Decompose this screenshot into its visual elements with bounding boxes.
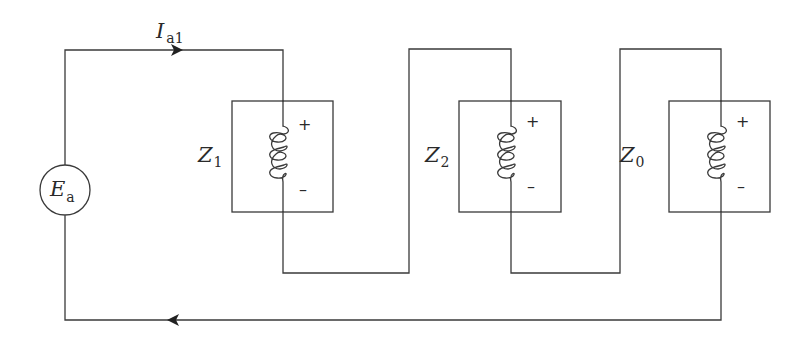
impedance-box [669, 101, 770, 212]
plus-sign: + [526, 112, 539, 131]
inductor-coil-icon [498, 126, 517, 212]
impedance-z1: Z1 + – [197, 101, 333, 212]
wiring [65, 49, 721, 320]
inductor-coil-icon [270, 126, 289, 212]
wire-z1-z2 [283, 49, 511, 273]
impedance-z0: Z0 + – [619, 101, 770, 212]
minus-sign: – [737, 177, 745, 196]
plus-sign: + [736, 112, 749, 131]
current-label: Ia1 [155, 19, 184, 46]
minus-sign: – [299, 180, 307, 199]
current-indicator: Ia1 [155, 19, 184, 326]
inductor-coil-icon [708, 126, 727, 212]
voltage-source: Ea [40, 165, 90, 215]
wire-z2-z0 [511, 49, 721, 273]
minus-sign: – [527, 177, 535, 196]
wire-left-top [65, 50, 283, 165]
plus-sign: + [298, 115, 311, 134]
impedance-label: Z1 [197, 143, 223, 170]
impedance-z2: Z2 + – [424, 101, 561, 212]
impedance-label: Z0 [619, 143, 645, 170]
impedance-label: Z2 [424, 143, 450, 170]
circuit-diagram: Ea Ia1 Z1 + – Z2 + – Z0 + – [0, 0, 807, 344]
wire-left-bottom [65, 212, 721, 320]
impedance-box [459, 101, 561, 212]
